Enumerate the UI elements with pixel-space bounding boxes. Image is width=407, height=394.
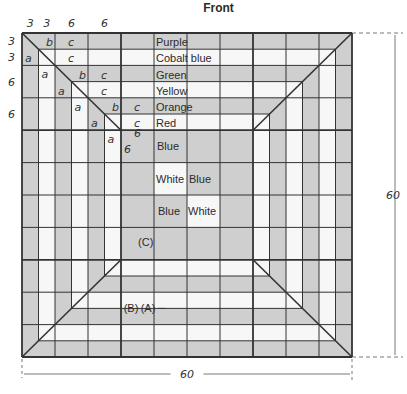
corner-letter-a: a (58, 85, 65, 98)
dim-left-label: 3 (8, 35, 15, 48)
corner-letter-b: b (112, 101, 119, 114)
corner-letter-c: c (68, 52, 74, 65)
corner-letter-a: a (42, 68, 49, 81)
center-cell (121, 163, 154, 195)
center-cell (220, 195, 253, 227)
center-cell (220, 130, 253, 162)
corner-letter-b: b (46, 36, 53, 49)
corner-letter-a: a (25, 52, 32, 65)
corner-letter-a: a (108, 133, 115, 146)
strip-label-yellow: Yellow (156, 85, 187, 97)
dim-width-label: 60 (180, 368, 194, 381)
dim-corner-label: 6 (124, 143, 131, 156)
corner-letter-b: b (79, 69, 86, 82)
grid-layer (22, 33, 352, 357)
center-cell (154, 227, 187, 259)
dim-left-label: 3 (8, 51, 15, 64)
center-label-blue: Blue (157, 140, 179, 152)
dim-top-label: 3 (43, 17, 50, 30)
corner-letter-a: a (75, 101, 82, 114)
center-cell (187, 227, 220, 259)
strip-label-cobalt-blue: Cobalt blue (156, 52, 212, 64)
strip-label-red: Red (156, 117, 176, 129)
corner-letter-c: c (101, 85, 107, 98)
center-cell (220, 227, 253, 259)
corner-letter-c: c (68, 36, 74, 49)
dim-left-label: 6 (8, 76, 15, 89)
center-cell (121, 195, 154, 227)
dim-left-label: 6 (8, 108, 15, 121)
center-cell (187, 130, 220, 162)
dim-top-label: 6 (101, 17, 108, 30)
quilt-diagram: PurpleCobalt blueGreenYellowOrangeRedBlu… (0, 0, 407, 394)
corner-letter-c: c (134, 101, 140, 114)
part-label-c: (C) (138, 236, 153, 248)
dim-top-label: 3 (27, 17, 34, 30)
strip-label-orange: Orange (156, 101, 193, 113)
strip-label-purple: Purple (156, 36, 188, 48)
dim-top-label: 6 (68, 17, 75, 30)
dim-height-label: 60 (386, 189, 400, 202)
center-cell (220, 163, 253, 195)
corner-letter-c: c (101, 69, 107, 82)
part-label-b: (B) (124, 302, 139, 314)
center-label-white-1: White (156, 173, 184, 185)
strip-label-green: Green (156, 69, 187, 81)
center-label-blue-3: Blue (158, 205, 180, 217)
center-label-white-2: White (188, 205, 216, 217)
part-label-a: (A) (141, 302, 156, 314)
dim-corner-label: 6 (134, 127, 141, 140)
corner-letter-a: a (91, 117, 98, 130)
center-label-blue-2: Blue (189, 173, 211, 185)
